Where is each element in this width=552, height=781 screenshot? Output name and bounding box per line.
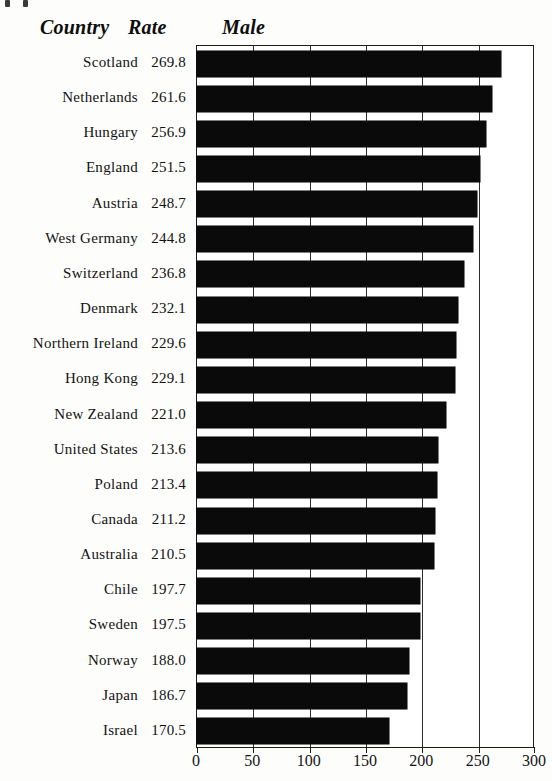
chart-row-label: Switzerland236.8 — [0, 256, 190, 291]
bar — [197, 472, 437, 498]
bar — [197, 191, 477, 217]
bar — [197, 437, 438, 463]
grid-line — [310, 46, 311, 747]
chart-row-label: Denmark232.1 — [0, 291, 190, 326]
rate-value-label: 229.1 — [140, 361, 186, 396]
rate-value-label: 197.5 — [140, 607, 186, 642]
country-label: Austria — [92, 186, 138, 221]
rate-value-label: 197.7 — [140, 572, 186, 607]
grid-line — [253, 46, 254, 747]
bar — [197, 51, 501, 77]
country-label: England — [86, 150, 138, 185]
x-tick-label: 250 — [466, 752, 490, 770]
bar — [197, 648, 409, 674]
country-label: Northern Ireland — [33, 326, 138, 361]
rate-value-label: 170.5 — [140, 713, 186, 748]
country-label: Denmark — [80, 291, 138, 326]
column-header-rate: Rate — [128, 16, 167, 39]
country-label: Norway — [88, 643, 138, 678]
grid-line — [366, 46, 367, 747]
rate-value-label: 188.0 — [140, 643, 186, 678]
chart-series-title: Male — [222, 16, 265, 39]
country-label: Israel — [103, 713, 138, 748]
bar — [197, 261, 464, 287]
bar — [197, 297, 458, 323]
rate-value-label: 211.2 — [140, 502, 186, 537]
chart-row-label: Norway188.0 — [0, 643, 190, 678]
chart-row-label: Austria248.7 — [0, 186, 190, 221]
grid-line — [422, 46, 423, 747]
x-tick-label: 200 — [409, 752, 433, 770]
chart-row-label: England251.5 — [0, 150, 190, 185]
plot-area — [196, 45, 534, 748]
rate-value-label: 229.6 — [140, 326, 186, 361]
bar — [197, 367, 455, 393]
rate-value-label: 213.4 — [140, 467, 186, 502]
country-label: West Germany — [45, 221, 138, 256]
x-tick-label: 150 — [353, 752, 377, 770]
chart-row-label: Japan186.7 — [0, 678, 190, 713]
chart-page: Country Rate Male Scotland269.8Netherlan… — [0, 0, 552, 781]
rate-value-label: 186.7 — [140, 678, 186, 713]
rate-value-label: 248.7 — [140, 186, 186, 221]
scan-artifact — [5, 0, 10, 7]
scan-artifact — [23, 0, 28, 7]
x-tick-label: 100 — [297, 752, 321, 770]
column-header-country: Country — [40, 16, 109, 39]
chart-row-label: New Zealand221.0 — [0, 397, 190, 432]
chart-row-label: Israel170.5 — [0, 713, 190, 748]
country-label: Poland — [95, 467, 138, 502]
rate-value-label: 210.5 — [140, 537, 186, 572]
chart-row-label: Sweden197.5 — [0, 607, 190, 642]
chart-row-label: Netherlands261.6 — [0, 80, 190, 115]
country-label: Scotland — [83, 45, 138, 80]
rate-value-label: 236.8 — [140, 256, 186, 291]
bar — [197, 226, 473, 252]
x-axis-tick-labels: 050100150200250300 — [196, 752, 534, 780]
country-label: Sweden — [89, 607, 138, 642]
country-label: New Zealand — [54, 397, 138, 432]
rate-value-label: 251.5 — [140, 150, 186, 185]
chart-row-label: Canada211.2 — [0, 502, 190, 537]
bar — [197, 578, 420, 604]
x-tick-label: 50 — [244, 752, 260, 770]
rate-value-label: 269.8 — [140, 45, 186, 80]
country-label: Chile — [104, 572, 138, 607]
country-label: Hong Kong — [65, 361, 138, 396]
bar — [197, 543, 434, 569]
x-tick-label: 0 — [192, 752, 200, 770]
chart-row-label: Poland213.4 — [0, 467, 190, 502]
bar — [197, 332, 456, 358]
chart-row-label: Northern Ireland229.6 — [0, 326, 190, 361]
grid-line — [479, 46, 480, 747]
chart-row-label: Hungary256.9 — [0, 115, 190, 150]
country-label: Japan — [102, 678, 138, 713]
country-label: Australia — [80, 537, 138, 572]
chart-row-label: United States213.6 — [0, 432, 190, 467]
chart-row-label: Chile197.7 — [0, 572, 190, 607]
rate-value-label: 256.9 — [140, 115, 186, 150]
bar — [197, 613, 420, 639]
rate-value-label: 232.1 — [140, 291, 186, 326]
rate-value-label: 221.0 — [140, 397, 186, 432]
chart-row-label: Australia210.5 — [0, 537, 190, 572]
country-label: Netherlands — [62, 80, 138, 115]
chart-row-label: West Germany244.8 — [0, 221, 190, 256]
bar — [197, 86, 492, 112]
country-label: Canada — [91, 502, 138, 537]
rate-value-label: 244.8 — [140, 221, 186, 256]
bar — [197, 402, 446, 428]
bar — [197, 718, 389, 744]
bar — [197, 508, 435, 534]
category-label-column: Scotland269.8Netherlands261.6Hungary256.… — [0, 45, 190, 748]
bar — [197, 683, 407, 709]
x-tick-label: 300 — [522, 752, 546, 770]
country-label: Hungary — [83, 115, 138, 150]
country-label: United States — [54, 432, 138, 467]
chart-row-label: Scotland269.8 — [0, 45, 190, 80]
chart-row-label: Hong Kong229.1 — [0, 361, 190, 396]
rate-value-label: 261.6 — [140, 80, 186, 115]
bar — [197, 121, 486, 147]
rate-value-label: 213.6 — [140, 432, 186, 467]
bar — [197, 156, 480, 182]
